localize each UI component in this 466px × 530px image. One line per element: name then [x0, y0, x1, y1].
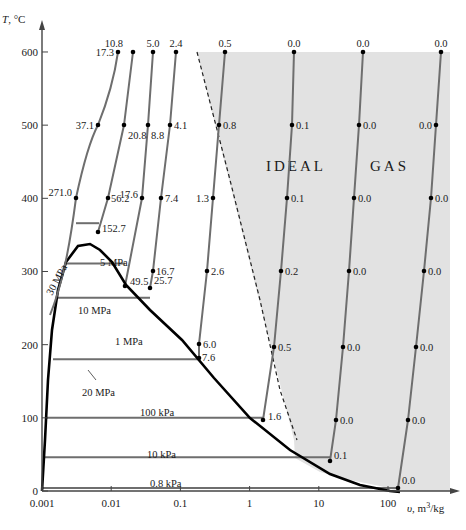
error-percent-label: 0.2: [285, 266, 298, 277]
error-percent-label: 0.8: [223, 120, 236, 131]
data-point-marker: [439, 50, 444, 55]
data-point-marker: [174, 50, 179, 55]
data-point-marker: [168, 123, 173, 128]
data-point-marker: [290, 123, 295, 128]
error-percent-label: 0.0: [434, 38, 447, 49]
error-percent-label: 1.3: [196, 193, 209, 204]
x-axis-title: υ, m3/kg: [407, 501, 445, 514]
data-point-marker: [285, 196, 290, 201]
error-percent-label: 7.4: [165, 193, 179, 204]
x-tick-label: 10: [313, 497, 325, 509]
y-tick-label: 300: [22, 265, 39, 277]
y-axis-title: T, °C: [2, 13, 25, 25]
isobar-curve: [150, 52, 176, 288]
data-point-marker: [347, 269, 352, 274]
isobar-curve: [98, 52, 133, 232]
gas-label-word: GAS: [370, 158, 409, 174]
error-percent-label: 0.0: [419, 120, 432, 131]
isobar-label: 10 kPa: [147, 449, 176, 460]
error-percent-label: 152.7: [102, 223, 126, 234]
data-point-marker: [151, 269, 156, 274]
data-point-marker: [422, 269, 427, 274]
y-axis-ticks: 0100200300400500600: [22, 46, 49, 497]
data-point-marker: [140, 196, 145, 201]
data-point-marker: [357, 123, 362, 128]
data-point-marker: [151, 50, 156, 55]
error-percent-label: 271.0: [48, 187, 72, 198]
data-point-marker: [396, 486, 401, 491]
data-point-marker: [96, 123, 101, 128]
error-percent-label: 6.0: [203, 339, 216, 350]
data-point-marker: [122, 123, 127, 128]
y-tick-label: 500: [22, 119, 39, 131]
isobar-label: 100 kPa: [140, 407, 174, 418]
error-percent-label: 0.1: [296, 120, 309, 131]
y-tick-label: 600: [22, 46, 39, 58]
error-percent-label: 20.8: [128, 130, 146, 141]
data-point-marker: [334, 418, 339, 423]
isobar-label: 1 MPa: [115, 336, 143, 347]
error-percent-label: 0.0: [353, 266, 366, 277]
data-point-marker: [352, 196, 357, 201]
isobar-label: 0.8 kPa: [150, 478, 182, 489]
error-percent-label: 0.0: [340, 415, 353, 426]
error-percent-label: 0.0: [420, 342, 433, 353]
error-percent-label: 0.0: [287, 38, 300, 49]
ideal-label-word: IDEAL: [266, 158, 326, 174]
y-tick-label: 200: [22, 339, 39, 351]
data-point-marker: [211, 196, 216, 201]
error-percent-label: 37.1: [76, 120, 94, 131]
data-point-marker: [361, 50, 366, 55]
error-percent-label: 0.0: [412, 415, 425, 426]
data-point-marker: [146, 123, 151, 128]
error-percent-label: 0.5: [278, 342, 291, 353]
data-point-marker: [341, 345, 346, 350]
data-point-marker: [131, 50, 136, 55]
error-percent-label: 0.0: [402, 475, 415, 486]
error-percent-label: 0.0: [435, 193, 448, 204]
data-point-marker: [197, 342, 202, 347]
error-percent-label: 8.8: [151, 130, 164, 141]
x-tick-label: 100: [380, 497, 397, 509]
error-percent-label: 0.1: [291, 193, 304, 204]
x-axis-ticks: 0.0010.010.1110100: [30, 486, 397, 509]
x-tick-label: 1: [247, 497, 253, 509]
error-percent-label: 0.0: [347, 342, 360, 353]
error-percent-label: 17.3: [96, 47, 114, 58]
data-point-marker: [292, 50, 297, 55]
data-point-marker: [429, 196, 434, 201]
data-point-marker: [272, 345, 277, 350]
data-point-marker: [279, 269, 284, 274]
error-percent-label: 25.7: [154, 275, 172, 286]
x-tick-label: 0.1: [174, 497, 188, 509]
error-percent-label: 0.0: [363, 120, 376, 131]
x-tick-label: 0.01: [102, 497, 121, 509]
tv-diagram-chart: IDEALGAS 20 MPa10 MPa5 MPa1 MPa100 kPa10…: [0, 0, 466, 530]
y-tick-label: 400: [22, 192, 39, 204]
error-percent-label: 0.0: [358, 193, 371, 204]
isobar-label: 10 MPa: [78, 305, 111, 316]
error-percent-label: 2.4: [169, 38, 183, 49]
data-point-marker: [414, 345, 419, 350]
data-point-marker: [96, 230, 101, 235]
data-point-marker: [148, 286, 153, 291]
data-point-marker: [116, 50, 121, 55]
error-percent-label: 2.6: [211, 266, 224, 277]
data-point-marker: [106, 196, 111, 201]
data-point-marker: [434, 123, 439, 128]
data-point-marker: [205, 269, 210, 274]
data-point-marker: [261, 418, 266, 423]
isobar-label: 20 MPa: [82, 387, 115, 398]
error-percent-label: 4.1: [174, 120, 187, 131]
data-point-marker: [159, 196, 164, 201]
data-point-marker: [328, 459, 333, 464]
error-percent-label: 0.1: [334, 450, 347, 461]
error-percent-label: 0.0: [428, 266, 441, 277]
data-point-marker: [74, 196, 79, 201]
data-point-marker: [123, 284, 128, 289]
y-tick-label: 0: [33, 485, 39, 497]
error-percent-label: 49.5: [130, 276, 148, 287]
error-percent-label: 1.6: [268, 411, 281, 422]
error-percent-label: 0.0: [356, 38, 369, 49]
data-point-marker: [197, 356, 202, 361]
